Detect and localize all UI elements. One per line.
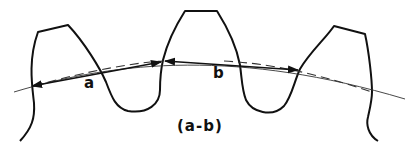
- label-a: a: [84, 74, 94, 92]
- figure-caption: (a-b): [177, 117, 223, 135]
- gear-pitch-diagram: a b (a-b): [0, 0, 418, 152]
- pitch-circle: [14, 65, 405, 99]
- label-b: b: [213, 64, 224, 82]
